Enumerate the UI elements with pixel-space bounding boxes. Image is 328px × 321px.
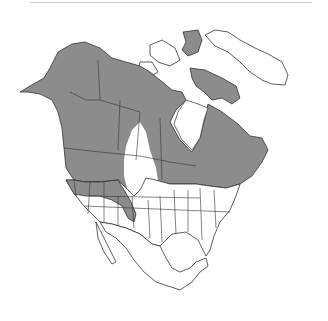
ellesmere-island: [182, 30, 202, 56]
baffin-island: [190, 68, 240, 104]
range-map: [0, 0, 328, 321]
